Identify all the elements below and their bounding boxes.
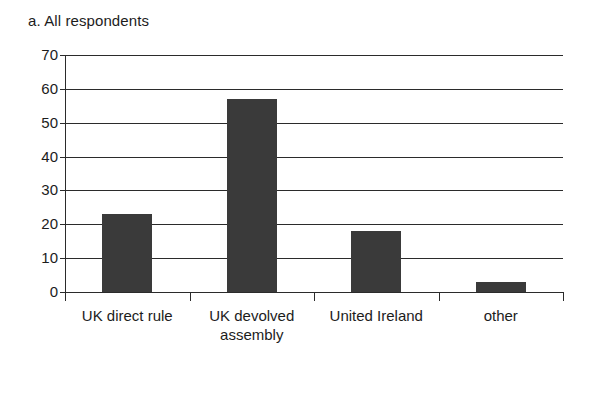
gridline	[65, 190, 563, 191]
y-axis-tick-label: 40	[12, 149, 58, 164]
x-axis-category-label: UK devolved assembly	[190, 306, 315, 344]
y-axis-tick-mark	[60, 55, 66, 56]
x-axis-tick-mark	[439, 292, 440, 301]
x-axis-tick-mark	[65, 292, 66, 301]
bar	[476, 282, 526, 292]
y-axis-tick-labels: 010203040506070	[8, 55, 58, 292]
bar	[102, 214, 152, 292]
y-axis-tick-label: 10	[12, 250, 58, 265]
chart-title: a. All respondents	[28, 11, 149, 31]
x-axis-tick-mark	[190, 292, 191, 301]
y-axis-tick-mark	[60, 224, 66, 225]
y-axis-tick-label: 20	[12, 216, 58, 231]
bar-chart-figure: a. All respondents 010203040506070 UK di…	[0, 0, 592, 400]
bar	[351, 231, 401, 292]
gridline	[65, 55, 563, 56]
y-axis-tick-label: 0	[12, 284, 58, 299]
y-axis-tick-mark	[60, 157, 66, 158]
y-axis-tick-label: 60	[12, 81, 58, 96]
x-axis-category-label: United Ireland	[314, 306, 439, 325]
y-axis-tick-mark	[60, 123, 66, 124]
gridline	[65, 123, 563, 124]
bar	[227, 99, 277, 292]
plot-area	[65, 55, 563, 292]
x-axis-tick-mark	[563, 292, 564, 301]
y-axis-tick-mark	[60, 190, 66, 191]
y-axis-tick-label: 30	[12, 182, 58, 197]
x-axis-tick-mark	[314, 292, 315, 301]
y-axis-tick-mark	[60, 89, 66, 90]
x-axis-category-label: UK direct rule	[65, 306, 190, 325]
x-axis-category-label: other	[439, 306, 564, 325]
y-axis-tick-label: 50	[12, 115, 58, 130]
y-axis-tick-label: 70	[12, 47, 58, 62]
gridline	[65, 157, 563, 158]
y-axis-tick-mark	[60, 258, 66, 259]
gridline	[65, 89, 563, 90]
